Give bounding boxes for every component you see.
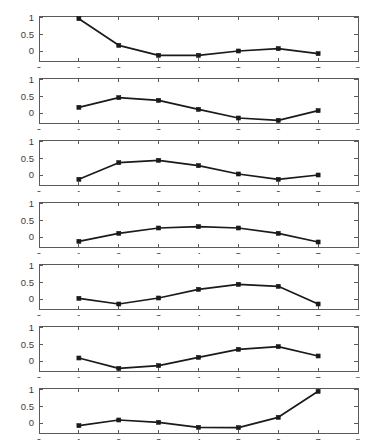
y-tick-label: 0.5 bbox=[21, 277, 34, 288]
y-tick-label: 0.5 bbox=[21, 29, 34, 40]
x-tick-label: 3 bbox=[156, 436, 161, 440]
data-point-marker bbox=[197, 53, 201, 57]
data-point-marker bbox=[316, 52, 320, 56]
data-point-marker bbox=[77, 424, 81, 428]
x-tick-label: 7 bbox=[315, 436, 320, 440]
y-tick-label: 1 bbox=[29, 136, 34, 147]
subplot-4: 01234567800.51 bbox=[0, 192, 379, 254]
data-point-marker bbox=[316, 109, 320, 113]
series-line bbox=[79, 19, 318, 56]
data-point-marker bbox=[117, 231, 121, 235]
data-point-marker bbox=[157, 226, 161, 230]
data-point-marker bbox=[117, 366, 121, 370]
subplot-plot-area-1: 01234567800.51 bbox=[0, 6, 379, 68]
data-point-marker bbox=[197, 225, 201, 229]
data-point-marker bbox=[157, 296, 161, 300]
axes-frame bbox=[39, 326, 358, 371]
y-tick-label: 1 bbox=[29, 384, 34, 395]
data-point-marker bbox=[157, 364, 161, 368]
x-tick-label: 2 bbox=[116, 436, 121, 440]
axes-frame bbox=[39, 78, 358, 123]
figure-canvas: 01234567800.5101234567800.5101234567800.… bbox=[0, 0, 379, 448]
data-point-marker bbox=[197, 355, 201, 359]
subplot-5: 01234567800.51 bbox=[0, 254, 379, 316]
y-tick-label: 1 bbox=[29, 12, 34, 23]
series-line bbox=[79, 160, 318, 179]
data-point-marker bbox=[316, 173, 320, 177]
y-tick-label: 1 bbox=[29, 260, 34, 271]
data-point-marker bbox=[197, 107, 201, 111]
subplot-7: 01234567800.51 bbox=[0, 378, 379, 440]
subplot-plot-area-6: 01234567800.51 bbox=[0, 316, 379, 378]
y-tick-label: 0.5 bbox=[21, 91, 34, 102]
subplot-6: 01234567800.51 bbox=[0, 316, 379, 378]
y-tick-label: 1 bbox=[29, 74, 34, 85]
y-tick-label: 0 bbox=[29, 355, 34, 366]
x-tick-label: 6 bbox=[276, 436, 281, 440]
y-tick-label: 0.5 bbox=[21, 401, 34, 412]
data-point-marker bbox=[236, 226, 240, 230]
y-tick-label: 1 bbox=[29, 322, 34, 333]
subplot-1: 01234567800.51 bbox=[0, 6, 379, 68]
data-point-marker bbox=[157, 420, 161, 424]
x-tick-label: 1 bbox=[76, 436, 81, 440]
data-point-marker bbox=[236, 172, 240, 176]
y-tick-label: 0 bbox=[29, 293, 34, 304]
subplot-plot-area-7: 01234567800.51 bbox=[0, 378, 379, 440]
data-point-marker bbox=[236, 426, 240, 430]
data-point-marker bbox=[276, 231, 280, 235]
y-tick-label: 1 bbox=[29, 198, 34, 209]
data-point-marker bbox=[197, 425, 201, 429]
data-point-marker bbox=[157, 98, 161, 102]
subplot-plot-area-2: 01234567800.51 bbox=[0, 68, 379, 130]
data-point-marker bbox=[316, 389, 320, 393]
data-point-marker bbox=[117, 418, 121, 422]
data-point-marker bbox=[157, 53, 161, 57]
data-point-marker bbox=[276, 177, 280, 181]
data-point-marker bbox=[316, 354, 320, 358]
data-point-marker bbox=[276, 284, 280, 288]
y-tick-label: 0.5 bbox=[21, 153, 34, 164]
subplot-2: 01234567800.51 bbox=[0, 68, 379, 130]
y-tick-label: 0 bbox=[29, 169, 34, 180]
y-tick-label: 0 bbox=[29, 107, 34, 118]
axes-frame bbox=[39, 140, 358, 185]
subplot-3: 01234567800.51 bbox=[0, 130, 379, 192]
data-point-marker bbox=[117, 43, 121, 47]
series-line bbox=[79, 391, 318, 427]
y-tick-label: 0 bbox=[29, 231, 34, 242]
x-tick-label: 8 bbox=[355, 436, 360, 440]
data-point-marker bbox=[77, 356, 81, 360]
data-point-marker bbox=[77, 296, 81, 300]
data-point-marker bbox=[117, 302, 121, 306]
data-point-marker bbox=[236, 347, 240, 351]
x-tick-label: 5 bbox=[236, 436, 241, 440]
x-tick-label: 0 bbox=[36, 436, 41, 440]
data-point-marker bbox=[276, 118, 280, 122]
data-point-marker bbox=[276, 47, 280, 51]
data-point-marker bbox=[316, 240, 320, 244]
data-point-marker bbox=[157, 158, 161, 162]
data-point-marker bbox=[117, 161, 121, 165]
data-point-marker bbox=[77, 17, 81, 21]
data-point-marker bbox=[77, 105, 81, 109]
data-point-marker bbox=[236, 282, 240, 286]
data-point-marker bbox=[117, 96, 121, 100]
axes-frame bbox=[39, 264, 358, 309]
data-point-marker bbox=[316, 302, 320, 306]
y-tick-label: 0 bbox=[29, 45, 34, 56]
y-tick-label: 0.5 bbox=[21, 215, 34, 226]
subplot-plot-area-3: 01234567800.51 bbox=[0, 130, 379, 192]
data-point-marker bbox=[276, 345, 280, 349]
data-point-marker bbox=[197, 287, 201, 291]
data-point-marker bbox=[236, 116, 240, 120]
subplot-plot-area-4: 01234567800.51 bbox=[0, 192, 379, 254]
data-point-marker bbox=[197, 164, 201, 168]
data-point-marker bbox=[77, 177, 81, 181]
y-tick-label: 0 bbox=[29, 417, 34, 428]
y-tick-label: 0.5 bbox=[21, 339, 34, 350]
data-point-marker bbox=[276, 415, 280, 419]
subplot-plot-area-5: 01234567800.51 bbox=[0, 254, 379, 316]
x-tick-label: 4 bbox=[196, 436, 201, 440]
data-point-marker bbox=[236, 49, 240, 53]
